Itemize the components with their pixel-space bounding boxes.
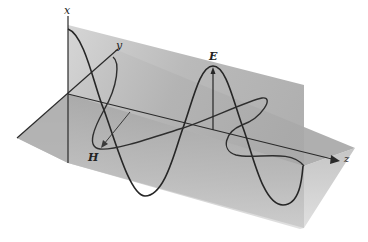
magnetic-field-label: H [88,152,98,163]
em-wave-figure [0,0,368,242]
z-axis-label: z [344,154,349,164]
horizontal-plane-left [17,94,68,163]
y-axis-label: y [116,40,122,51]
x-axis-label: x [64,5,70,16]
electric-field-label: E [209,51,217,62]
